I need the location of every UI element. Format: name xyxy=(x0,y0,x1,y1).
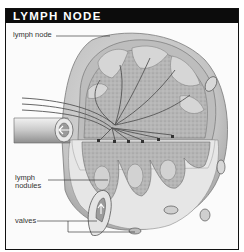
label-lymph-nodules-line2: nodules xyxy=(15,182,41,191)
efferent-vessel xyxy=(14,118,73,143)
label-lymph-node: lymph node xyxy=(13,31,52,40)
label-valves: valves xyxy=(15,217,36,226)
